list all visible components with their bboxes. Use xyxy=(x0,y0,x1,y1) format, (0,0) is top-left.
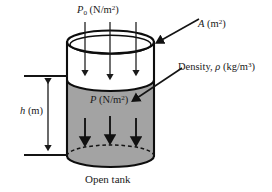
density-label: Density, ρ (kg/m3) xyxy=(178,62,255,73)
figure-caption: Open tank xyxy=(85,174,131,185)
area-pointer-arrow xyxy=(158,19,199,42)
area-label: A (m2) xyxy=(198,19,226,30)
depth-label: h (m) xyxy=(20,106,43,117)
tank-illustration xyxy=(0,0,272,192)
fluid-pressure-label: P (N/m2) xyxy=(90,95,128,106)
open-tank-pressure-diagram: P0 (N/m2) A (m2) Density, ρ (kg/m3) P (N… xyxy=(0,0,272,192)
ambient-pressure-label: P0 (N/m2) xyxy=(77,5,119,17)
density-pointer-arrow xyxy=(134,68,182,100)
